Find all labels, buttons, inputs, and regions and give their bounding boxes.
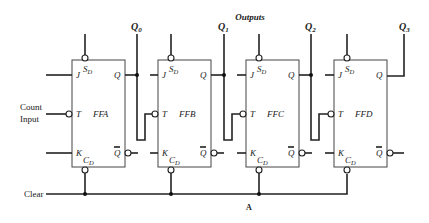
ffd-label: FFD bbox=[354, 109, 373, 119]
set-bubble-icon bbox=[256, 55, 262, 61]
svg-text:K: K bbox=[161, 148, 169, 158]
clear-bubble-icon bbox=[344, 167, 350, 173]
ripple-counter-diagram: Outputs Count Input Clear SD J Q T FFA K… bbox=[0, 0, 429, 223]
svg-text:Q: Q bbox=[200, 148, 207, 158]
count-input-label-2: Input bbox=[20, 114, 39, 124]
q3-label: Q3 bbox=[399, 21, 410, 34]
ffc-label: FFC bbox=[266, 109, 285, 119]
flipflop-ffa: SD J Q T FFA K Q CD bbox=[46, 34, 138, 196]
qbar-bubble-icon bbox=[299, 150, 305, 156]
qbar-bubble-icon bbox=[125, 150, 131, 156]
q3-wire bbox=[387, 34, 404, 76]
t-bubble-icon bbox=[66, 111, 72, 117]
q2-label: Q2 bbox=[305, 21, 316, 34]
svg-text:Q: Q bbox=[114, 148, 121, 158]
svg-text:Q: Q bbox=[288, 70, 295, 80]
qbar-bubble-icon bbox=[211, 150, 217, 156]
flipflop-ffb: SD J Q T FFB K Q CD bbox=[150, 34, 224, 196]
figure-label: A bbox=[246, 203, 252, 212]
count-input-label-1: Count bbox=[20, 102, 43, 112]
flipflop-ffc: SD J Q T FFC K Q CD bbox=[237, 34, 312, 196]
set-bubble-icon bbox=[168, 55, 174, 61]
q0-label: Q0 bbox=[131, 21, 142, 34]
svg-text:Q: Q bbox=[376, 148, 383, 158]
t-bubble-icon bbox=[328, 111, 334, 117]
set-bubble-icon bbox=[344, 55, 350, 61]
svg-text:K: K bbox=[75, 148, 83, 158]
q0-wire bbox=[137, 34, 153, 140]
clear-bus-wire bbox=[46, 174, 347, 194]
ffa-label: FFA bbox=[92, 109, 109, 119]
clear-bubble-icon bbox=[82, 167, 88, 173]
set-bubble-icon bbox=[82, 55, 88, 61]
svg-text:Q: Q bbox=[114, 70, 121, 80]
q1-label: Q1 bbox=[218, 21, 229, 34]
clear-bubble-icon bbox=[256, 167, 262, 173]
flipflop-ffd: SD J Q T FFD K Q CD bbox=[325, 34, 404, 173]
svg-text:K: K bbox=[249, 148, 257, 158]
q1-wire bbox=[224, 34, 240, 140]
ffb-label: FFB bbox=[178, 109, 196, 119]
clear-label: Clear bbox=[24, 189, 44, 199]
svg-text:Q: Q bbox=[376, 70, 383, 80]
outputs-title: Outputs bbox=[235, 12, 265, 22]
q2-wire bbox=[311, 34, 328, 140]
svg-text:K: K bbox=[337, 148, 345, 158]
t-bubble-icon bbox=[152, 111, 158, 117]
t-bubble-icon bbox=[240, 111, 246, 117]
clear-bubble-icon bbox=[168, 167, 174, 173]
svg-text:Q: Q bbox=[288, 148, 295, 158]
svg-text:Q: Q bbox=[200, 70, 207, 80]
qbar-bubble-icon bbox=[387, 150, 393, 156]
